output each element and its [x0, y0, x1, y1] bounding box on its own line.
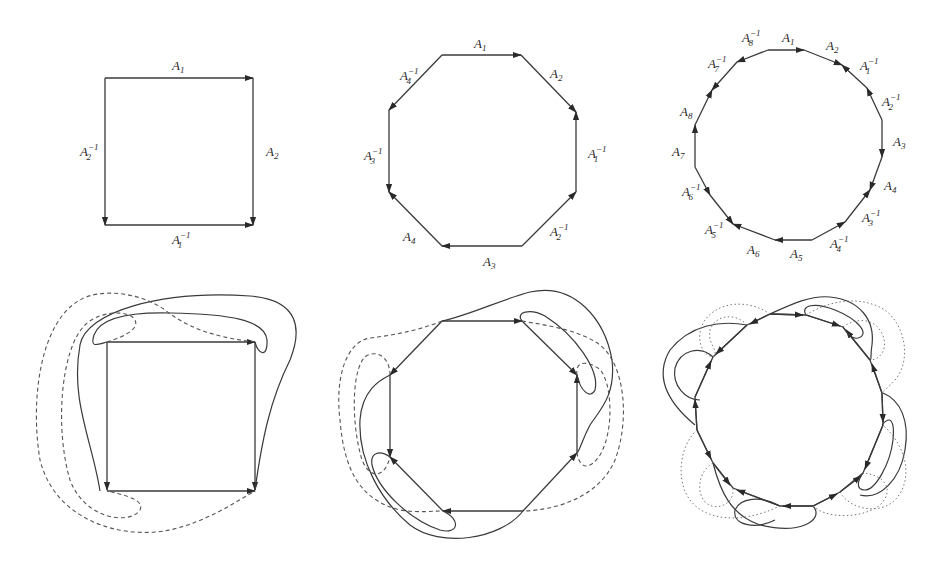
label-oct-0: A1	[473, 36, 486, 53]
square-polygon: A1 A2 A−11 A−12	[79, 58, 279, 250]
edge-a2	[521, 55, 576, 112]
edge-a4	[870, 157, 882, 190]
solid-curve-loop-left	[372, 453, 456, 531]
label-oct-5: A4	[402, 229, 416, 246]
edge	[522, 321, 577, 375]
label-16-1: A2	[825, 38, 839, 55]
edge-a2-inverse	[867, 88, 882, 120]
solid-curve-bottom-loop	[735, 499, 780, 525]
edge-a8	[695, 90, 712, 125]
solid-curve-left	[360, 375, 523, 538]
label-square-right: A2	[265, 144, 279, 161]
label-oct-2: A−11	[587, 144, 606, 164]
solid-curve-loop-right	[520, 312, 595, 394]
label-16-2: A−11	[859, 56, 878, 76]
edge	[390, 321, 442, 375]
sixteen-gon-polygon: A1 A2 A−11 A−12 A3 A4 A−13 A−14 A5 A6 A−…	[671, 28, 906, 263]
edge-arrow	[846, 330, 870, 360]
label-oct-3: A−12	[549, 222, 569, 242]
label-16-10: A−15	[704, 220, 724, 240]
label-16-13: A8	[679, 104, 693, 121]
edge-a8-inverse	[737, 50, 768, 62]
label-16-8: A5	[789, 246, 803, 263]
dotted-curve-top	[806, 301, 905, 393]
edge-a4	[389, 192, 442, 246]
solid-curve	[442, 290, 613, 453]
solid-curve-bottom	[713, 463, 816, 528]
label-16-5: A4	[883, 178, 897, 195]
label-16-7: A−14	[829, 234, 849, 254]
label-16-4: A3	[892, 134, 906, 151]
edge-a2-inverse	[522, 192, 576, 246]
label-16-15: A−18	[741, 28, 761, 48]
label-16-3: A−12	[881, 92, 901, 112]
dashed-curve-outer	[36, 293, 255, 532]
edge-arrow	[806, 315, 840, 326]
label-oct-6: A−13	[363, 146, 383, 166]
edge-arrow	[716, 325, 747, 354]
dotted-curve-top-inner	[843, 321, 885, 360]
label-oct-1: A2	[549, 66, 563, 83]
edge-arrow	[737, 490, 780, 506]
edge-arrow	[695, 361, 711, 397]
label-square-top: A1	[171, 58, 184, 75]
solid-curve-inner-loop	[93, 313, 267, 353]
label-16-12: A7	[671, 144, 685, 161]
label-16-0: A1	[781, 30, 794, 47]
octagon-polygon: A1 A2 A−11 A−12 A3 A4 A−13 A−14	[363, 36, 606, 271]
surface-polygons-diagram: A1 A2 A−11 A−12 A1 A2 A−11 A−12 A3 A4 A−…	[0, 0, 945, 561]
label-square-left: A−12	[79, 142, 99, 162]
edge-a4-inverse	[389, 55, 442, 110]
square-with-curves	[36, 293, 296, 532]
sixteen-gon-with-curves	[663, 297, 906, 529]
label-16-11: A−16	[681, 182, 701, 202]
edge-arrow	[872, 364, 882, 393]
edge	[390, 457, 443, 511]
solid-curve-left-loop	[675, 350, 713, 400]
dashed-curve-right	[522, 321, 623, 511]
label-oct-4: A3	[482, 254, 496, 271]
dashed-curve-inner	[354, 354, 390, 474]
edge-arrow	[697, 430, 711, 459]
label-square-bottom: A−11	[171, 230, 190, 250]
octagon-with-curves	[339, 290, 624, 538]
edge-arrow	[813, 494, 837, 506]
edge-arrow	[750, 314, 770, 324]
label-16-6: A−13	[861, 208, 881, 228]
edge-arrow	[865, 425, 883, 469]
dotted-curve-bottom-right	[840, 425, 906, 509]
edge-a6	[733, 224, 775, 240]
label-16-9: A6	[746, 242, 760, 259]
label-16-14: A−17	[707, 54, 727, 74]
dashed-curve-right-inner	[577, 363, 610, 466]
